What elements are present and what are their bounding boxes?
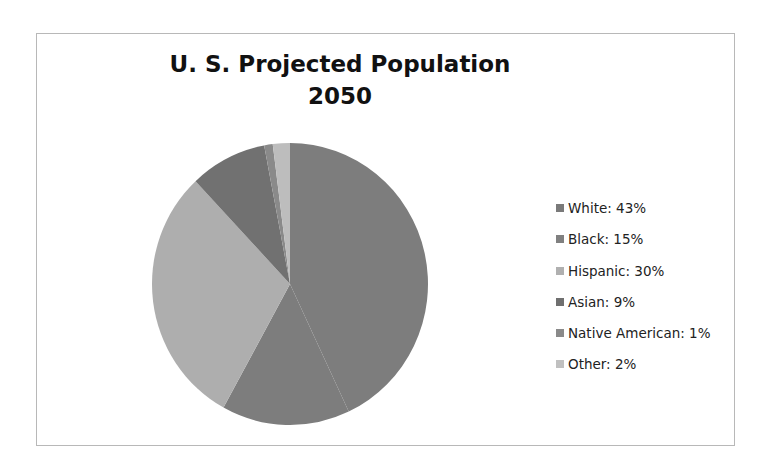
legend-item-native-american: Native American: 1% <box>556 324 711 342</box>
legend-label-white: White: 43% <box>568 200 646 216</box>
legend-swatch-black <box>556 235 564 243</box>
legend-item-other: Other: 2% <box>556 355 636 373</box>
legend-label-hispanic: Hispanic: 30% <box>568 263 664 279</box>
legend-swatch-hispanic <box>556 267 564 275</box>
legend-item-asian: Asian: 9% <box>556 293 635 311</box>
legend-label-other: Other: 2% <box>568 356 636 372</box>
legend-item-white: White: 43% <box>556 199 646 217</box>
legend-item-black: Black: 15% <box>556 230 643 248</box>
pie-slices <box>152 143 428 425</box>
legend-label-asian: Asian: 9% <box>568 294 635 310</box>
pie-chart <box>0 0 774 464</box>
legend-swatch-asian <box>556 298 564 306</box>
legend-label-native-american: Native American: 1% <box>568 325 711 341</box>
legend-label-black: Black: 15% <box>568 231 643 247</box>
legend-item-hispanic: Hispanic: 30% <box>556 262 664 280</box>
legend-swatch-other <box>556 360 564 368</box>
legend-swatch-native-american <box>556 329 564 337</box>
legend-swatch-white <box>556 204 564 212</box>
